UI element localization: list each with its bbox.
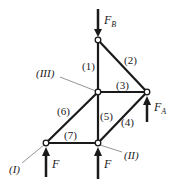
node-label-II: (II) bbox=[124, 150, 139, 161]
joint-A bbox=[144, 89, 150, 95]
force-label-FB: FB bbox=[104, 14, 116, 29]
member-label-5: (5) bbox=[100, 111, 113, 122]
arrowhead-up-icon bbox=[94, 147, 102, 156]
truss-diagram: FB FA F F (1) (2) (3) (4) (5) (6) (7) (I… bbox=[0, 0, 175, 186]
force-label-F-I: F bbox=[52, 158, 59, 170]
member-label-2: (2) bbox=[124, 55, 137, 66]
leader-II bbox=[100, 145, 122, 152]
leader-III bbox=[60, 77, 96, 91]
node-label-III: (III) bbox=[36, 68, 54, 79]
node-label-I: (I) bbox=[9, 164, 20, 175]
force-label-F-II: F bbox=[104, 158, 111, 170]
truss-drawing bbox=[0, 0, 175, 186]
arrowhead-up-icon bbox=[42, 147, 50, 156]
member-label-1: (1) bbox=[82, 61, 95, 72]
member-label-7: (7) bbox=[64, 130, 77, 141]
leader-I bbox=[22, 145, 44, 163]
arrowhead-down-icon bbox=[94, 29, 102, 37]
joint-II bbox=[95, 140, 101, 146]
joint-III bbox=[95, 89, 101, 95]
member-label-6: (6) bbox=[57, 106, 70, 117]
joint-I bbox=[43, 140, 49, 146]
arrowhead-up-icon bbox=[143, 96, 151, 105]
force-label-FA: FA bbox=[154, 101, 166, 116]
member-label-3: (3) bbox=[116, 80, 129, 91]
joint-top bbox=[95, 37, 101, 43]
member-label-4: (4) bbox=[121, 117, 134, 128]
